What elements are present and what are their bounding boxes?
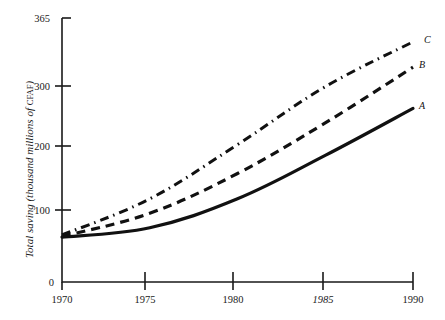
series-label-c: C bbox=[424, 34, 431, 45]
series-labels-group: A B C bbox=[418, 34, 431, 112]
x-tick-label-1975: 1975 bbox=[135, 294, 156, 305]
x-tick-label-1985: 1985 bbox=[313, 294, 334, 305]
y-tick-label-200: 200 bbox=[34, 141, 50, 152]
y-axis-tick-labels: 365 300 200 100 0 bbox=[34, 13, 54, 288]
y-tick-label-365: 365 bbox=[34, 13, 50, 24]
series-label-a: A bbox=[418, 100, 426, 111]
data-series-group bbox=[62, 42, 413, 237]
y-axis-ticks bbox=[55, 18, 71, 210]
x-axis-tick-labels: 1970 1975 1980 1985 1990 bbox=[52, 294, 424, 305]
y-axis-title-main: Total saving (thousand millions of bbox=[23, 105, 36, 258]
x-axis-ticks bbox=[62, 272, 413, 290]
x-tick-label-1990: 1990 bbox=[403, 294, 424, 305]
chart-canvas: Total saving (thousand millions of CFAF)… bbox=[0, 0, 445, 320]
y-tick-label-0: 0 bbox=[49, 277, 54, 288]
y-tick-label-100: 100 bbox=[34, 205, 50, 216]
series-line-b[interactable] bbox=[62, 67, 413, 236]
axis-spine bbox=[62, 18, 413, 282]
svg-text:Total saving (thousand million: Total saving (thousand millions of CFAF) bbox=[23, 80, 36, 258]
savings-line-chart: Total saving (thousand millions of CFAF)… bbox=[0, 0, 445, 320]
series-label-b: B bbox=[419, 59, 425, 70]
y-tick-label-300: 300 bbox=[34, 81, 50, 92]
x-tick-label-1970: 1970 bbox=[52, 294, 73, 305]
x-tick-label-1980: 1980 bbox=[223, 294, 244, 305]
y-axis-title: Total saving (thousand millions of CFAF) bbox=[23, 80, 36, 258]
